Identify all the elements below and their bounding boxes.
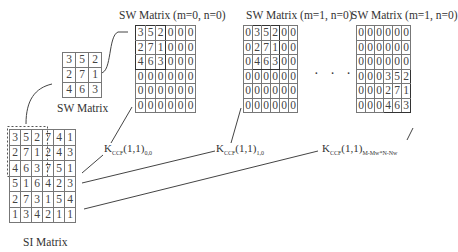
cell: 4 — [54, 130, 65, 146]
cell: 0 — [366, 55, 375, 70]
cell: 0 — [280, 69, 289, 84]
cell: 2 — [43, 145, 54, 161]
cell: 0 — [262, 98, 271, 113]
cell: 0 — [244, 55, 253, 70]
cell: 6 — [21, 161, 32, 177]
cell: 0 — [366, 40, 375, 55]
sw-matrix-title-0: SW Matrix (m=0, n=0) — [119, 9, 226, 21]
cell: 6 — [146, 55, 156, 70]
cell: 3 — [384, 69, 393, 84]
cell: 0 — [280, 55, 289, 70]
cell: 2 — [384, 84, 393, 99]
cell: 0 — [244, 26, 253, 41]
cell: 3 — [253, 26, 262, 41]
cell: 4 — [253, 55, 262, 70]
cell: 0 — [146, 69, 156, 84]
cell: 2 — [89, 53, 102, 68]
cell: 0 — [280, 26, 289, 41]
cell: 1 — [32, 145, 43, 161]
cell: 1 — [65, 207, 76, 223]
k-label-0: KCCF(1,1)0,0 — [104, 142, 152, 156]
cell: 4 — [32, 207, 43, 223]
cell: 3 — [136, 26, 146, 41]
cell: 2 — [156, 26, 166, 41]
cell: 0 — [375, 98, 384, 113]
cell: 5 — [21, 130, 32, 146]
cell: 0 — [393, 26, 402, 41]
si-matrix: 352741271243463751516423273154134211 — [9, 129, 76, 223]
cell: 0 — [186, 69, 196, 84]
cell: 0 — [384, 55, 393, 70]
cell: 0 — [166, 55, 176, 70]
cell: 7 — [43, 130, 54, 146]
cell: 6 — [32, 176, 43, 192]
cell: 0 — [186, 40, 196, 55]
cell: 0 — [393, 40, 402, 55]
cell: 0 — [244, 69, 253, 84]
cell: 3 — [65, 176, 76, 192]
cell: 6 — [393, 98, 402, 113]
cell: 5 — [54, 192, 65, 208]
cell: 1 — [10, 207, 21, 223]
cell: 1 — [402, 84, 411, 99]
cell: 0 — [357, 40, 366, 55]
cell: 0 — [244, 40, 253, 55]
small-sw-matrix: 3 5 2 2 7 1 4 6 3 — [62, 52, 102, 98]
cell: 7 — [21, 192, 32, 208]
cell: 0 — [186, 98, 196, 113]
cell: 7 — [393, 84, 402, 99]
cell: 6 — [76, 83, 89, 98]
cell: 0 — [156, 84, 166, 99]
cell: 3 — [21, 207, 32, 223]
cell: 1 — [156, 40, 166, 55]
cell: 1 — [54, 207, 65, 223]
cell: 1 — [65, 161, 76, 177]
cell: 0 — [166, 40, 176, 55]
cell: 5 — [146, 26, 156, 41]
cell: 0 — [176, 40, 186, 55]
cell: 0 — [253, 84, 262, 99]
cell: 1 — [43, 192, 54, 208]
cell: 4 — [384, 98, 393, 113]
cell: 5 — [76, 53, 89, 68]
cell: 2 — [253, 40, 262, 55]
cell: 0 — [366, 69, 375, 84]
cell: 4 — [10, 161, 21, 177]
cell: 2 — [54, 176, 65, 192]
k-label-1: KCCF(1,1)1,0 — [216, 142, 264, 156]
cell: 6 — [262, 55, 271, 70]
cell: 1 — [65, 130, 76, 146]
cell: 0 — [375, 40, 384, 55]
cell: 0 — [253, 98, 262, 113]
cell: 0 — [136, 84, 146, 99]
cell: 0 — [271, 84, 280, 99]
sw-padded-matrix-1: 035200027100046300000000000000000000 — [243, 25, 298, 113]
cell: 0 — [375, 26, 384, 41]
cell: 2 — [271, 26, 280, 41]
cell: 5 — [10, 176, 21, 192]
cell: 0 — [375, 69, 384, 84]
cell: 7 — [76, 68, 89, 83]
cell: 0 — [176, 26, 186, 41]
cell: 0 — [166, 26, 176, 41]
cell: 0 — [357, 84, 366, 99]
cell: 0 — [289, 40, 298, 55]
cell: 0 — [166, 98, 176, 113]
cell: 0 — [289, 55, 298, 70]
cell: 0 — [357, 69, 366, 84]
cell: 0 — [244, 84, 253, 99]
cell: 0 — [253, 69, 262, 84]
cell: 0 — [244, 98, 253, 113]
ellipsis: · · · — [314, 66, 355, 82]
cell: 4 — [136, 55, 146, 70]
cell: 0 — [262, 69, 271, 84]
cell: 0 — [271, 69, 280, 84]
cell: 2 — [136, 40, 146, 55]
cell: 0 — [156, 69, 166, 84]
cell: 7 — [146, 40, 156, 55]
cell: 1 — [89, 68, 102, 83]
cell: 0 — [280, 84, 289, 99]
cell: 0 — [136, 69, 146, 84]
cell: 7 — [21, 145, 32, 161]
cell: 0 — [357, 55, 366, 70]
